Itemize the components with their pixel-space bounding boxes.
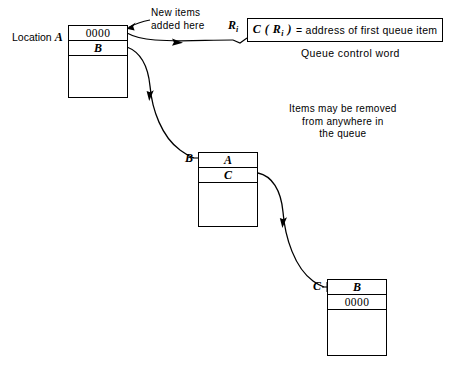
block-c-label-name: C	[313, 279, 321, 293]
new-items-leader-arrow	[127, 20, 151, 31]
link-a-to-b-arrow	[127, 47, 194, 158]
block-a-cell-1: 0000	[69, 26, 127, 41]
block-c-cell-2: 0000	[328, 295, 386, 310]
memory-block-c: B 0000	[327, 279, 387, 356]
block-c-label: C	[313, 279, 321, 294]
block-b-cell-2: C	[199, 168, 257, 183]
block-c-cell-1: B	[328, 280, 386, 295]
link-b-to-c-arrow	[258, 173, 324, 287]
block-a-label: Location A	[12, 30, 63, 45]
removal-line-1: Items may be removed	[289, 103, 397, 116]
block-a-label-prefix: Location	[12, 31, 52, 43]
control-word-body: = address of first queue item	[296, 24, 437, 36]
removal-annotation: Items may be removed from anywhere in th…	[289, 103, 397, 141]
block-b-label: B	[185, 151, 193, 166]
removal-line-3: the queue	[289, 128, 397, 141]
new-items-line-2: added here	[151, 20, 205, 33]
block-b-cell-1: A	[199, 153, 257, 168]
block-b-label-name: B	[185, 151, 193, 165]
register-ri-name: R	[228, 18, 236, 32]
new-items-annotation: New items added here	[151, 7, 205, 32]
register-ri-label: Ri	[228, 18, 238, 34]
new-items-line-1: New items	[151, 7, 205, 20]
control-word-expression: C ( Ri )	[253, 22, 292, 38]
block-a-label-name: A	[55, 30, 63, 44]
removal-line-2: from anywhere in	[289, 116, 397, 129]
control-word-to-block-a-arrow	[127, 33, 247, 46]
queue-control-word-box: C ( Ri ) = address of first queue item	[247, 18, 443, 42]
queue-control-word-caption: Queue control word	[301, 47, 400, 59]
control-word-expression-suffix: )	[284, 22, 292, 36]
control-word-expression-prefix: C ( R	[253, 22, 282, 36]
queue-diagram-figure: Location A 0000 B B A C C B 0000 New ite…	[0, 0, 449, 376]
memory-block-a: 0000 B	[68, 25, 128, 98]
block-a-cell-2: B	[69, 41, 127, 56]
memory-block-b: A C	[198, 152, 258, 227]
register-ri-subscript: i	[236, 25, 238, 34]
